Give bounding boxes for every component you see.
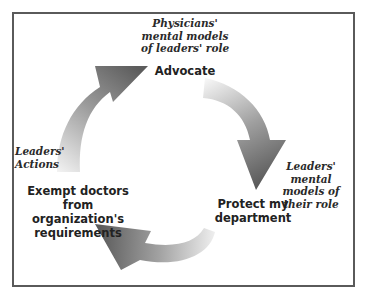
- advocate-label: Advocate: [150, 64, 220, 78]
- label-line: Exempt doctors from: [18, 184, 138, 212]
- label-line: department: [213, 211, 293, 225]
- label-line: Actions: [15, 158, 63, 171]
- label-line: Leaders' mental: [270, 160, 352, 185]
- label-line: Protect my: [213, 197, 293, 211]
- label-line: Leaders': [15, 145, 63, 158]
- arrow-actions-to-advocate: [57, 66, 148, 172]
- leaders-actions-label: Leaders' Actions: [15, 145, 63, 170]
- protect-department-label: Protect my department: [213, 197, 293, 225]
- label-line: models of: [270, 185, 352, 198]
- exempt-doctors-label: Exempt doctors from organization's requi…: [18, 184, 138, 240]
- label-line: Physicians': [130, 17, 240, 30]
- label-line: mental models: [130, 30, 240, 43]
- label-line: of leaders' role: [130, 42, 240, 55]
- label-line: requirements: [18, 226, 138, 240]
- physicians-mental-models-label: Physicians' mental models of leaders' ro…: [130, 17, 240, 55]
- label-line: organization's: [18, 212, 138, 226]
